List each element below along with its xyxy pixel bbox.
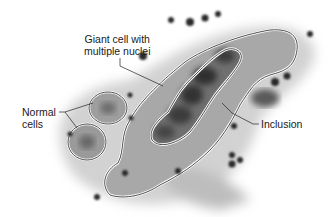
- giant-cell-label-line2: multiple nuclei: [84, 45, 151, 57]
- dark-cell: [251, 89, 279, 107]
- normal-cells-label: Normal cells: [22, 106, 56, 130]
- normal-cells-label-line2: cells: [22, 118, 56, 130]
- micrograph-figure: Giant cell with multiple nuclei Normal c…: [0, 0, 329, 217]
- inclusion-label: Inclusion: [261, 118, 302, 130]
- normal-cells-label-line1: Normal: [22, 106, 56, 118]
- giant-cell-label: Giant cell with multiple nuclei: [84, 33, 151, 57]
- giant-cell-label-line1: Giant cell with: [84, 33, 151, 45]
